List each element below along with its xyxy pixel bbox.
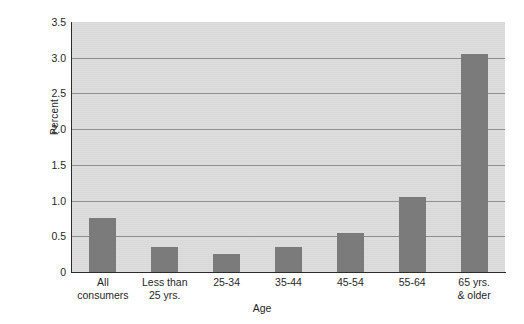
x-axis-tick-label-line: 45-54: [319, 276, 381, 289]
bar: [275, 247, 302, 272]
x-axis-tick-label-line: 25 yrs.: [134, 289, 196, 302]
y-axis-tick-label: 2.0: [40, 124, 66, 134]
x-axis-tick-label: 65 yrs.& older: [443, 276, 505, 301]
bar: [151, 247, 178, 272]
bar: [213, 254, 240, 272]
x-axis-title: Age: [0, 302, 524, 314]
bar: [89, 218, 116, 272]
y-axis-tick-label: 0: [40, 267, 66, 277]
x-axis-tick-label-line: 25-34: [196, 276, 258, 289]
x-axis-tick-label-line: consumers: [72, 289, 134, 302]
x-axis-tick-label-line: & older: [443, 289, 505, 302]
y-axis-tick-label: 0.5: [40, 231, 66, 241]
plot-area: [72, 22, 505, 272]
y-axis-tick-label: 2.5: [40, 88, 66, 98]
y-axis-tick-label: 1.5: [40, 160, 66, 170]
bar: [461, 54, 488, 272]
x-axis-tick-label: 35-44: [258, 276, 320, 289]
gridline: [72, 93, 505, 94]
x-axis-tick-label: 25-34: [196, 276, 258, 289]
x-axis-tick-label: Less than25 yrs.: [134, 276, 196, 301]
bar: [337, 233, 364, 272]
y-axis-tick-label: 3.0: [40, 53, 66, 63]
bar: [399, 197, 426, 272]
bar-chart: Percent 00.51.01.52.02.53.03.5 Allconsum…: [0, 0, 524, 324]
x-axis-tick-label: 45-54: [319, 276, 381, 289]
x-axis-tick-label: 55-64: [381, 276, 443, 289]
x-axis-tick-label-line: 55-64: [381, 276, 443, 289]
gridline: [72, 58, 505, 59]
y-axis-tick-labels: 00.51.01.52.02.53.03.5: [34, 0, 66, 324]
gridline: [72, 165, 505, 166]
x-axis-tick-label-line: 65 yrs.: [443, 276, 505, 289]
x-axis-tick-label-line: 35-44: [258, 276, 320, 289]
y-axis-tick-label: 1.0: [40, 196, 66, 206]
y-axis-tick-label: 3.5: [40, 17, 66, 27]
x-axis-tick-label-line: Less than: [134, 276, 196, 289]
gridline: [72, 236, 505, 237]
gridline: [72, 201, 505, 202]
x-axis-line: [71, 272, 506, 273]
x-axis-tick-label-line: All: [72, 276, 134, 289]
gridline: [72, 129, 505, 130]
x-axis-tick-label: Allconsumers: [72, 276, 134, 301]
